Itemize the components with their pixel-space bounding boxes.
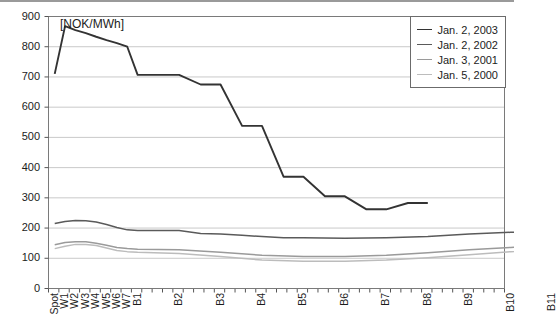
legend-item[interactable]: Jan. 2, 2003 — [417, 22, 498, 37]
y-axis-tick-label: 100 — [8, 252, 40, 263]
x-axis-tick-label: B9 — [463, 293, 473, 306]
y-axis-tick-label: 600 — [8, 101, 40, 112]
y-axis-tick-label: 800 — [8, 41, 40, 52]
y-axis-tick-label: 400 — [8, 162, 40, 173]
legend-item-label: Jan. 2, 2002 — [437, 39, 498, 51]
x-axis-tick-label: B5 — [297, 293, 307, 306]
legend-item-label: Jan. 2, 2003 — [437, 24, 498, 36]
legend-line-swatch — [417, 74, 432, 75]
legend-line-swatch — [417, 59, 432, 60]
y-axis-ticks — [45, 17, 49, 289]
legend-line-swatch — [417, 44, 432, 45]
y-axis-tick-label: 500 — [8, 131, 40, 142]
unit-label: [NOK/MWh] — [60, 17, 124, 31]
legend-item[interactable]: Jan. 5, 2000 — [417, 67, 498, 82]
x-axis-tick-label: B10 — [505, 293, 515, 312]
x-axis-tick-label: B3 — [215, 293, 225, 306]
legend-item[interactable]: Jan. 3, 2001 — [417, 52, 498, 67]
x-axis-tick-label: W4 — [90, 293, 100, 309]
y-axis-tick-label: 0 — [8, 283, 40, 294]
y-axis-tick-label: 300 — [8, 192, 40, 203]
x-axis-tick-label: B7 — [380, 293, 390, 306]
x-axis-tick-label: B2 — [173, 293, 183, 306]
x-axis-tick-label: W7 — [121, 293, 131, 309]
legend-line-swatch — [417, 29, 432, 30]
x-axis-tick-label: B4 — [256, 293, 266, 306]
chart-legend: Jan. 2, 2003Jan. 2, 2002Jan. 3, 2001Jan.… — [410, 16, 506, 88]
x-axis-tick-label: B8 — [422, 293, 432, 306]
legend-item-label: Jan. 5, 2000 — [437, 69, 498, 81]
y-axis-tick-label: 700 — [8, 71, 40, 82]
x-axis-tick-label: B11 — [546, 293, 556, 311]
x-axis-tick-label: W2 — [69, 293, 79, 309]
legend-item[interactable]: Jan. 2, 2002 — [417, 37, 498, 52]
y-axis-tick-label: 900 — [8, 11, 40, 22]
x-axis-tick-label: B6 — [339, 293, 349, 306]
y-axis-tick-label: 200 — [8, 222, 40, 233]
x-axis-tick-label: B1 — [132, 293, 142, 306]
legend-item-label: Jan. 3, 2001 — [437, 54, 498, 66]
